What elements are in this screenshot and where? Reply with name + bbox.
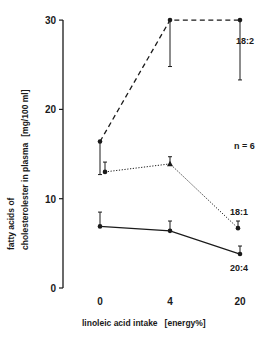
x-tick-label: 4 [167, 296, 173, 307]
series-group [98, 18, 243, 257]
series-line [105, 164, 238, 228]
y-tick-label: 0 [50, 283, 56, 294]
x-tick-label: 0 [97, 296, 103, 307]
y-axis-title: fatty acids of cholesterolester in plasm… [6, 89, 30, 250]
series-20-4 [98, 212, 243, 256]
x-axis-title-text: linoleic acid intake [82, 318, 158, 328]
y-axis-title-line2: cholesterolester in plasma[mg/100 ml] [20, 89, 30, 250]
y-tick-label: 30 [45, 15, 57, 26]
y-axis-unit: [mg/100 ml] [20, 89, 30, 136]
line-chart: 0102030 fatty acids of cholesterolester … [0, 0, 272, 348]
y-tick-label: 20 [45, 104, 57, 115]
y-ticks: 0102030 [45, 15, 63, 294]
y-axis-title-line1: fatty acids of [6, 197, 16, 250]
series-label-18-2: 18:2 [236, 36, 254, 46]
circle-marker [98, 224, 103, 229]
circle-marker [98, 139, 103, 144]
circle-marker [103, 170, 108, 175]
y-tick-label: 10 [45, 194, 57, 205]
triangle-marker [167, 161, 173, 167]
series-18-2 [98, 18, 243, 175]
sample-size-annotation: n = 6 [234, 141, 255, 151]
series-18-1 [103, 157, 241, 231]
circle-marker [238, 18, 243, 23]
series-label-20-4: 20:4 [230, 263, 248, 273]
y-axis-title-text: cholesterolester in plasma [20, 142, 30, 250]
circle-marker [236, 226, 241, 231]
x-axis-unit: [energy%] [165, 318, 206, 328]
x-ticks: 0420 [97, 296, 246, 307]
circle-marker [238, 252, 243, 257]
circle-marker [168, 18, 173, 23]
series-label-18-1: 18:1 [230, 207, 248, 217]
x-axis-title: linoleic acid intake[energy%] [82, 318, 206, 328]
x-tick-label: 20 [234, 296, 246, 307]
circle-marker [168, 229, 173, 234]
